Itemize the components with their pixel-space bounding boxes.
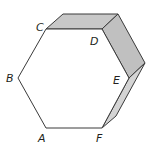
vertex-label-f: F	[96, 132, 103, 145]
vertex-label-a: A	[37, 132, 46, 145]
hexagonal-prism-diagram: A B C D E F	[0, 0, 152, 147]
vertex-label-b: B	[6, 72, 14, 85]
vertex-label-e: E	[113, 74, 120, 87]
vertex-label-c: C	[36, 21, 44, 34]
vertex-label-d: D	[90, 35, 98, 48]
